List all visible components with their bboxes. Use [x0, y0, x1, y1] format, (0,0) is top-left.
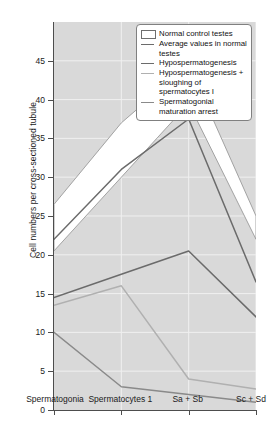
- series-line-3: [54, 332, 256, 402]
- y-axis-tick-label: 0: [40, 405, 45, 415]
- y-axis-tick-label: 30: [36, 172, 45, 182]
- legend-item: Hypospermatogenesis + sloughing of sperm…: [141, 68, 248, 97]
- chart-legend: Normal control testesAverage values in n…: [136, 24, 252, 121]
- y-axis-tick-label: 10: [36, 327, 45, 337]
- y-axis-tick: [48, 61, 53, 62]
- x-axis-tick-label: Sa + Sb: [172, 394, 202, 404]
- legend-item: Spermatogonial maturation arrest: [141, 97, 248, 116]
- series-line-2: [54, 286, 256, 389]
- x-axis-tick: [54, 410, 55, 415]
- legend-line-icon: [141, 44, 154, 45]
- legend-line-icon: [141, 63, 154, 64]
- legend-key-swatch: [141, 30, 156, 39]
- y-axis-tick: [48, 138, 53, 139]
- y-axis-tick-label: 25: [36, 211, 45, 221]
- y-axis-tick: [48, 410, 53, 411]
- x-axis-tick-label: Sc + Sd: [236, 394, 266, 404]
- legend-line-icon: [141, 102, 154, 103]
- legend-item: Average values in normal testes: [141, 39, 248, 58]
- y-axis-tick-label: 20: [36, 250, 45, 260]
- y-axis-tick-label: 15: [36, 289, 45, 299]
- legend-item-label: Average values in normal testes: [159, 39, 248, 58]
- y-axis-tick: [48, 332, 53, 333]
- legend-item-label: Hypospermatogenesis + sloughing of sperm…: [159, 68, 248, 97]
- y-axis-tick: [48, 255, 53, 256]
- legend-item: Normal control testes: [141, 29, 248, 39]
- legend-key-line: [141, 98, 156, 107]
- y-axis-tick: [48, 100, 53, 101]
- legend-swatch-icon: [141, 30, 156, 39]
- y-axis-tick-label: 40: [36, 95, 45, 105]
- legend-item-label: Normal control testes: [159, 29, 248, 39]
- x-axis-tick: [121, 410, 122, 415]
- series-line-1: [54, 251, 256, 317]
- x-axis-tick-label: Spermatogonia: [26, 394, 84, 404]
- legend-item: Hypospermatogenesis: [141, 58, 248, 68]
- y-axis-tick: [48, 177, 53, 178]
- legend-line-icon: [141, 73, 154, 74]
- legend-key-line: [141, 69, 156, 78]
- legend-item-label: Hypospermatogenesis: [159, 58, 248, 68]
- legend-item-label: Spermatogonial maturation arrest: [159, 97, 248, 116]
- y-axis-tick-label: 5: [40, 366, 45, 376]
- y-axis-tick-label: 45: [36, 56, 45, 66]
- x-axis-tick-label: Spermatocytes 1: [88, 394, 152, 404]
- y-axis-tick-label: 35: [36, 133, 45, 143]
- y-axis-tick: [48, 294, 53, 295]
- legend-key-line: [141, 40, 156, 49]
- chart-figure: Cell numbers per cross-sectioned tubule …: [0, 0, 277, 439]
- x-axis-tick: [256, 410, 257, 415]
- x-axis-tick: [189, 410, 190, 415]
- legend-key-line: [141, 59, 156, 68]
- y-axis-tick: [48, 216, 53, 217]
- y-axis-tick: [48, 371, 53, 372]
